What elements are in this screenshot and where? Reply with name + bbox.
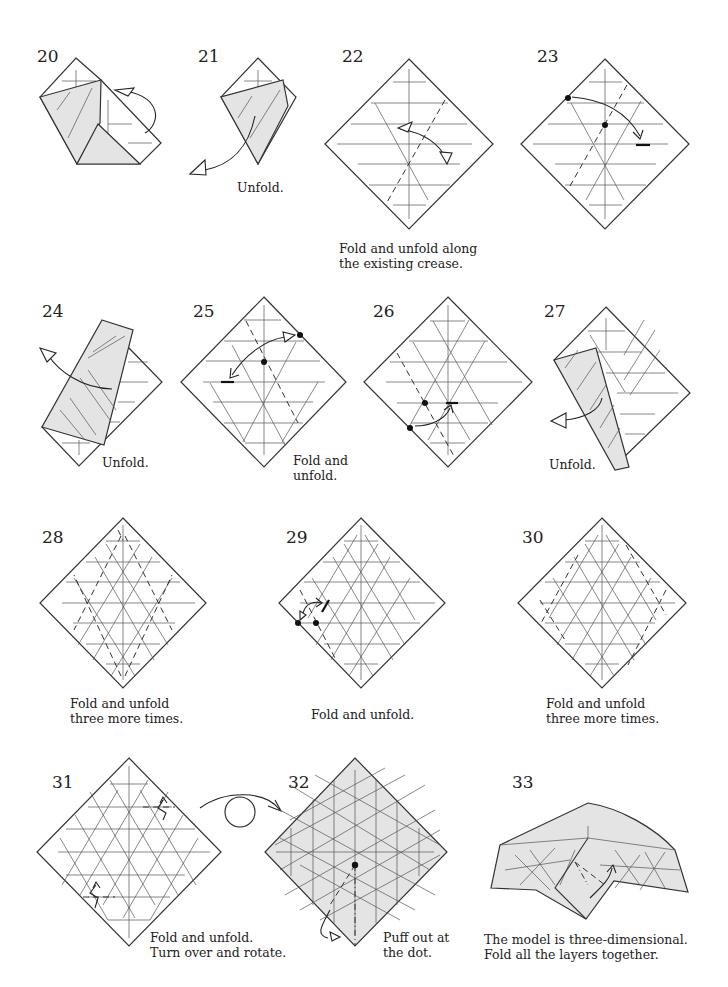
step-caption: The model is three-dimensional. Fold all… — [484, 932, 688, 962]
folding-diagram — [0, 0, 728, 987]
